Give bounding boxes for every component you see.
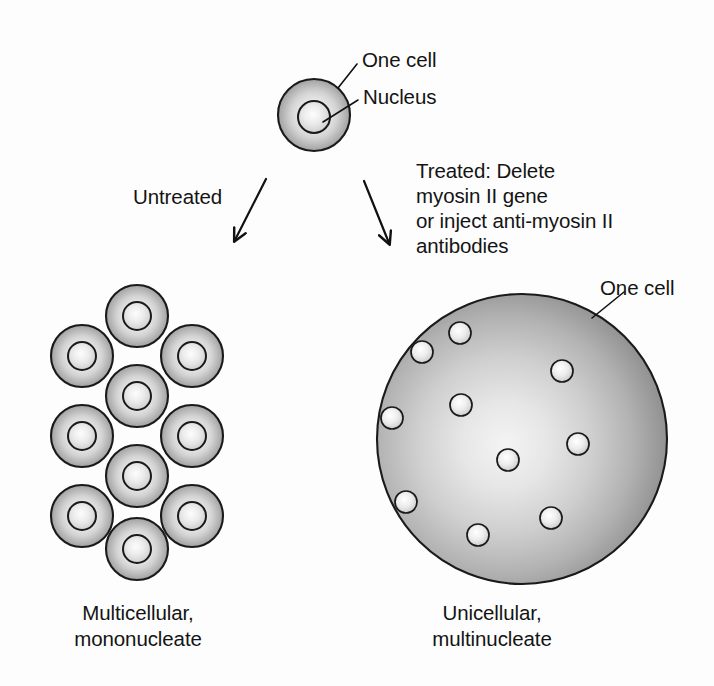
untreated-label: Untreated xyxy=(133,185,222,208)
nucleus xyxy=(467,524,489,546)
cluster-cell xyxy=(106,285,168,347)
cluster-cell xyxy=(161,485,223,547)
nucleus xyxy=(497,449,519,471)
caption-right-line-2: multinucleate xyxy=(432,627,552,650)
figure-canvas: One cell Nucleus Untreated Treated: Dele… xyxy=(0,0,714,686)
parent-cell-group xyxy=(278,79,350,151)
cluster-cell xyxy=(106,445,168,507)
treated-arrow xyxy=(364,181,389,243)
one-cell-right-label: One cell xyxy=(600,276,674,299)
nucleus xyxy=(567,433,589,455)
nucleus-top-label: Nucleus xyxy=(363,85,436,108)
nucleus xyxy=(450,394,472,416)
treated-label-line-2: myosin II gene xyxy=(416,184,548,207)
multinucleate-cell-membrane xyxy=(377,294,667,584)
nucleus xyxy=(540,507,562,529)
diagram-svg: One cell Nucleus Untreated Treated: Dele… xyxy=(0,0,714,686)
cluster-cell xyxy=(51,325,113,387)
treated-label-line-3: or inject anti-myosin II xyxy=(416,209,613,232)
treated-label-line-4: antibodies xyxy=(416,234,508,257)
one-cell-top-leader-line xyxy=(338,64,357,88)
cluster-cell xyxy=(51,405,113,467)
caption-right-line-1: Unicellular, xyxy=(442,601,541,624)
cluster-cell xyxy=(161,325,223,387)
nucleus xyxy=(449,322,471,344)
caption-left-line-2: mononucleate xyxy=(74,627,202,650)
nucleus xyxy=(411,341,433,363)
caption-left-line-1: Multicellular, xyxy=(82,601,193,624)
treated-label-block: Treated: Delete myosin II gene or inject… xyxy=(416,159,613,257)
cluster-cell xyxy=(106,518,168,580)
multinucleate-cell-group xyxy=(377,294,667,584)
cluster-cell xyxy=(51,485,113,547)
parent-cell-nucleus xyxy=(298,101,330,133)
cluster-cell xyxy=(106,365,168,427)
caption-right: Unicellular, multinucleate xyxy=(432,601,552,650)
nucleus xyxy=(381,407,403,429)
one-cell-top-label: One cell xyxy=(362,48,436,71)
treated-label-line-1: Treated: Delete xyxy=(416,159,555,182)
multicellular-cluster xyxy=(51,285,223,580)
nucleus xyxy=(395,491,417,513)
caption-left: Multicellular, mononucleate xyxy=(74,601,202,650)
nucleus xyxy=(551,360,573,382)
cluster-cell xyxy=(161,405,223,467)
untreated-arrow xyxy=(235,179,266,240)
